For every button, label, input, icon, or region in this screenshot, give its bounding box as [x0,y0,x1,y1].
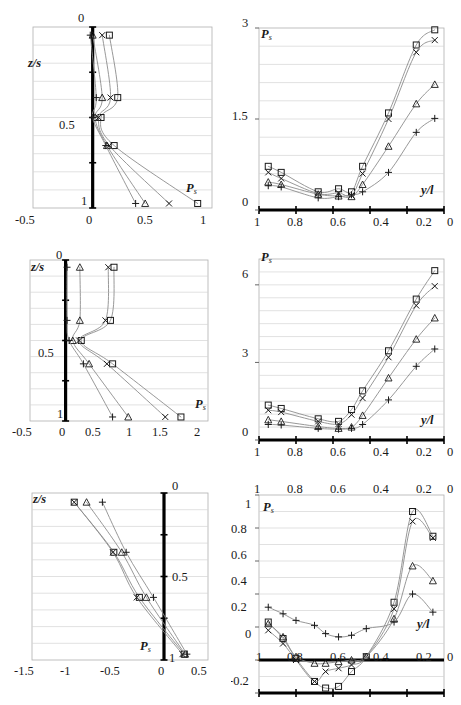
x-axis-label: Ps [140,640,151,654]
chart-panel-mid-right: 1 0.8 0.6 0.4 0.2 0 0 3 6 Ps y/l [231,235,461,465]
y-tick-label: 0 [242,426,248,439]
x-tick-label: 2 [194,426,200,439]
y-tick-label: 0.8 [231,523,247,536]
y-tick-label: 0 [242,196,248,209]
x-tick-top-label: 1 [254,483,260,496]
y-tick-label: 0.2 [231,601,247,614]
y-tick-label: 0.4 [231,575,247,588]
x-axis-label: y/l [417,618,430,631]
x-tick-label: 0.2 [416,216,432,229]
chart-panel-mid-left: -0.5 0 0.5 1 1.5 2 0 0.5 1 z/s Ps [0,235,231,465]
y-axis-label: z/s [28,57,41,70]
x-tick-top-label: 0.4 [373,483,389,496]
figure-panel-grid: -0.5 0 0.5 1 0 0.5 1 z/s Ps 1 0.8 0.6 0.… [0,0,461,705]
x-tick-label: 0.5 [85,426,101,439]
chart-panel-bottom-left: -1.5 -1 -0.5 0 0.5 0 0.5 1 z/s Ps [0,465,231,705]
y-tick-label: 3 [242,347,248,360]
x-tick-label: 1 [254,446,260,459]
y-axis-label: Ps [261,251,272,265]
y-axis-label: Ps [263,501,274,515]
x-tick-label: 0.4 [373,651,389,664]
x-tick-label: -1 [60,665,70,678]
y-tick-label: 1 [57,408,63,421]
chart-panel-top-right: 1 0.8 0.6 0.4 0.2 0 0 1.5 3 Ps y/l [231,0,461,235]
x-tick-label: 1 [200,214,206,227]
y-tick-label: 1.5 [232,110,248,123]
x-tick-label: 0 [86,214,92,227]
y-tick-label: 0 [56,249,62,262]
y-tick-label: 0 [172,480,178,493]
x-tick-label: 0.5 [137,214,153,227]
x-tick-label: 0 [158,665,164,678]
x-tick-top-label: 0.2 [416,483,432,496]
y-tick-label: 0 [245,628,251,641]
x-tick-label: 1 [126,426,132,439]
y-tick-label: -0.2 [231,675,249,688]
chart-panel-bottom-right: 1 0.8 0.6 0.4 0.2 0 1 0.8 0.6 0.4 0.2 0 … [231,465,461,705]
x-tick-label: 0.2 [416,651,432,664]
plot-top-left [0,0,231,235]
x-tick-label: 0.6 [330,216,346,229]
x-axis-label: y/l [421,414,434,427]
y-tick-label: 0.5 [172,571,188,584]
y-tick-label: 1 [245,498,251,511]
x-tick-label: -0.5 [12,426,32,439]
x-axis-label: Ps [186,182,197,196]
y-tick-label: 1 [169,652,175,665]
x-axis-label: Ps [195,398,206,412]
x-tick-label: 0.6 [330,446,346,459]
x-tick-label: 1 [256,651,262,664]
chart-panel-top-left: -0.5 0 0.5 1 0 0.5 1 z/s Ps [0,0,231,235]
x-tick-label: 0.6 [330,651,346,664]
x-tick-label: 0 [447,651,453,664]
x-tick-label: -0.5 [100,665,120,678]
plot-mid-right [231,235,461,465]
y-axis-label: Ps [261,28,272,42]
y-axis-label: z/s [33,493,46,506]
x-tick-top-label: 0.8 [287,483,303,496]
x-tick-label: 0.4 [373,216,389,229]
x-tick-top-label: 0.6 [330,483,346,496]
x-tick-label: 0.5 [191,665,207,678]
x-tick-label: 1.5 [152,426,168,439]
x-axis-label: y/l [421,184,434,197]
x-tick-label: 0.8 [287,446,303,459]
x-tick-label: 0 [447,446,453,459]
x-tick-label: 1 [254,216,260,229]
x-tick-label: -0.5 [15,214,35,227]
y-tick-label: 0.5 [59,119,75,132]
x-tick-label: 0.2 [416,446,432,459]
x-tick-label: 0.8 [287,216,303,229]
y-tick-label: 6 [242,268,248,281]
x-tick-top-label: 0 [447,483,453,496]
x-tick-label: 0.4 [373,446,389,459]
y-tick-label: 3 [242,17,248,30]
x-tick-label: -1.5 [14,665,34,678]
y-tick-label: 0 [78,12,84,25]
y-axis-label: z/s [31,261,44,274]
x-tick-label: 0 [59,426,65,439]
y-tick-label: 0.6 [231,549,247,562]
x-tick-label: 0.8 [287,651,303,664]
y-tick-label: 0.5 [38,347,54,360]
x-tick-label: 0 [447,216,453,229]
y-tick-label: 1 [81,195,87,208]
